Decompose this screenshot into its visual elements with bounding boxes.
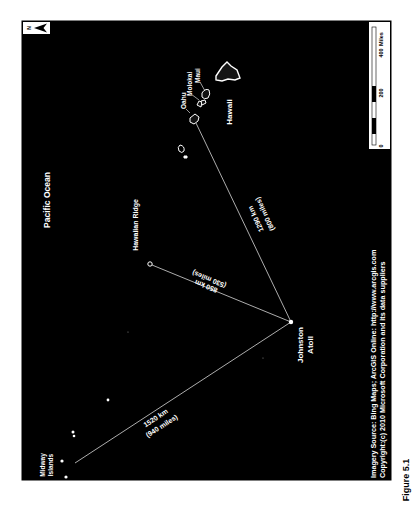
scale-tick-200: 200 [378,88,384,97]
pacific-ocean-label: Pacific Ocean [42,172,52,228]
north-label: N [26,26,32,30]
figure-caption: Figure 5.1 [401,459,411,502]
johnston-atoll-marker [289,320,293,324]
imagery-credits: Imagery Source: Bing Maps; ArcGIS Online… [369,250,387,478]
midway-label: Midway Islands [39,453,54,477]
maui-label: Maui [194,68,201,83]
north-arrow: N [23,22,50,34]
hawaii-label: Hawaii [225,99,234,124]
scale-tick-0: 0 [378,144,384,147]
svg-text:Midway: Midway [39,453,47,477]
svg-text:Imagery Source: Bing Maps; Ar: Imagery Source: Bing Maps; ArcGIS Online… [369,250,378,478]
johnston-atoll-map: N Pacific Ocean Hawa [0,0,418,515]
scale-unit: Miles [378,32,384,46]
svg-text:Copyright:(c) 2010 Microsoft C: Copyright:(c) 2010 Microsoft Corporation… [378,262,387,478]
molokai-label: Molokai [186,72,193,96]
scale-tick-400: 400 [378,48,384,57]
svg-text:Atoll: Atoll [306,336,315,354]
svg-text:Islands: Islands [47,453,54,476]
hawaiian-ridge-label: Hawaiian Ridge [132,199,140,251]
svg-text:Johnston: Johnston [296,327,305,363]
